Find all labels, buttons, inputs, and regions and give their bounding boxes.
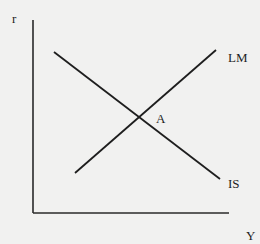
lm-curve bbox=[75, 50, 216, 173]
is-curve bbox=[54, 52, 220, 179]
is-lm-diagram bbox=[0, 0, 260, 244]
is-label: IS bbox=[228, 177, 240, 190]
y-axis-label: r bbox=[12, 12, 16, 25]
lm-label: LM bbox=[228, 51, 248, 64]
equilibrium-label: A bbox=[156, 112, 165, 125]
x-axis-label: Y bbox=[246, 229, 255, 242]
